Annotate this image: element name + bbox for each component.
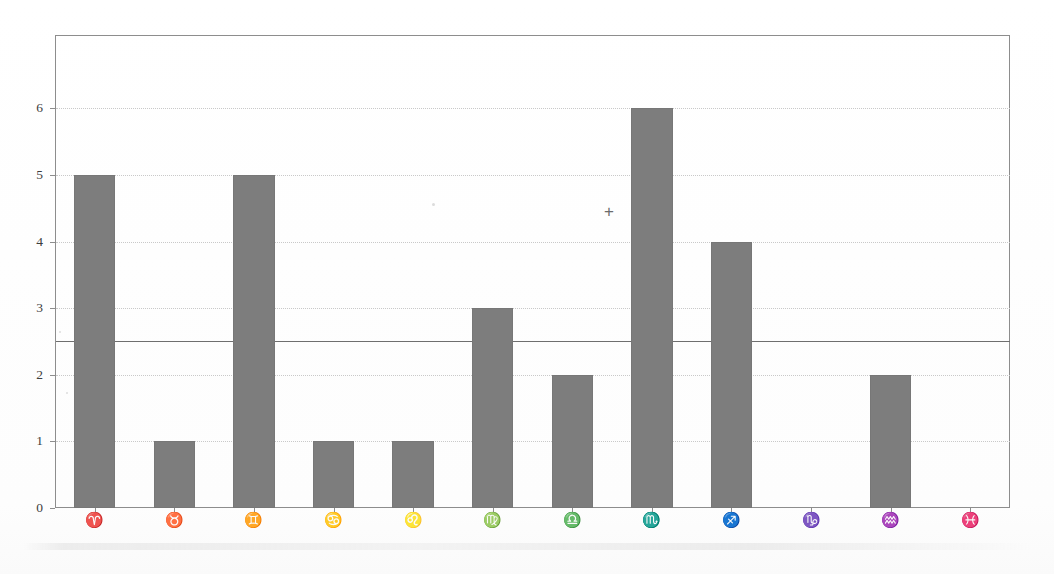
x-tick-label: ♎	[552, 512, 592, 529]
bar-chart: 0123456 ♈♉♊♋♌♍♎♏♐♑♒♓ +	[0, 0, 1054, 574]
bar	[313, 441, 354, 508]
bar	[472, 308, 513, 508]
bar	[552, 375, 593, 508]
scan-smudge	[24, 543, 1032, 550]
y-tick-mark	[50, 308, 55, 309]
bar	[154, 441, 195, 508]
y-tick-label: 6	[21, 101, 43, 115]
gridline	[56, 308, 1010, 309]
x-tick-label: ♈	[75, 512, 115, 529]
bar	[711, 242, 752, 508]
bar	[74, 175, 115, 508]
gridline	[56, 441, 1010, 442]
x-tick-label: ♓	[950, 512, 990, 529]
reference-line	[56, 341, 1010, 342]
x-tick-label: ♒	[871, 512, 911, 529]
x-tick-label: ♑	[791, 512, 831, 529]
x-tick-label: ♐	[711, 512, 751, 529]
y-tick-mark	[50, 242, 55, 243]
y-tick-mark	[50, 108, 55, 109]
bar	[870, 375, 911, 508]
scan-speck	[59, 331, 61, 333]
y-tick-mark	[50, 175, 55, 176]
gridline	[56, 375, 1010, 376]
x-tick-label: ♋	[314, 512, 354, 529]
chart-page: 0123456 ♈♉♊♋♌♍♎♏♐♑♒♓ +	[0, 0, 1054, 574]
y-tick-label: 2	[21, 368, 43, 382]
y-tick-mark	[50, 375, 55, 376]
x-tick-label: ♌	[393, 512, 433, 529]
y-tick-label: 0	[21, 501, 43, 515]
bar	[392, 441, 433, 508]
plot-frame	[55, 35, 1010, 508]
gridline	[56, 242, 1010, 243]
y-tick-label: 1	[21, 434, 43, 448]
y-tick-label: 3	[21, 301, 43, 315]
gridline	[56, 175, 1010, 176]
x-tick-label: ♏	[632, 512, 672, 529]
x-tick-label: ♉	[154, 512, 194, 529]
scan-speck	[66, 392, 68, 394]
scan-speck	[432, 203, 435, 206]
plus-marker: +	[601, 204, 617, 220]
x-tick-label: ♍	[473, 512, 513, 529]
x-tick-label: ♊	[234, 512, 274, 529]
y-tick-mark	[50, 441, 55, 442]
y-tick-label: 5	[21, 168, 43, 182]
bar	[631, 108, 672, 508]
gridline	[56, 108, 1010, 109]
y-tick-mark	[50, 508, 55, 509]
y-tick-label: 4	[21, 235, 43, 249]
bar	[233, 175, 274, 508]
